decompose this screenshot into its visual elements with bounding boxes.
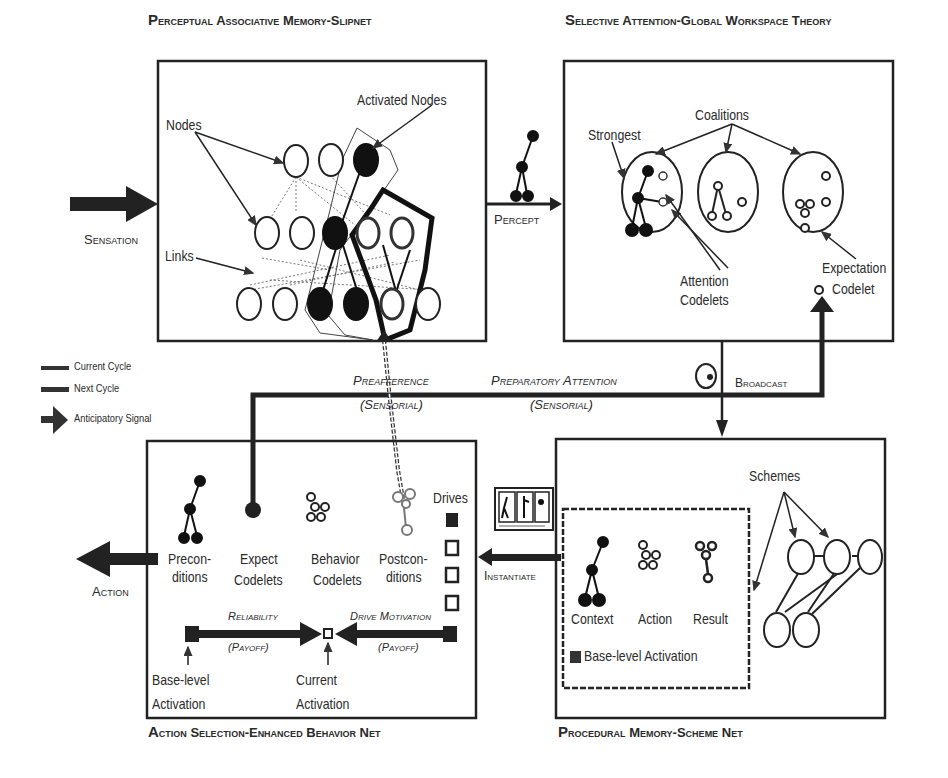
sensation-label: Sensation: [84, 233, 138, 247]
expect-codelet-node: [245, 502, 261, 518]
preparatory-attention-label-line1: Preparatory Attention: [491, 374, 617, 388]
preafference-chain: [376, 330, 404, 505]
percept-arrow: [486, 131, 562, 211]
action-arrow: [76, 541, 158, 577]
legend-symbols: [41, 366, 69, 434]
attention-codelets-label-line1: Attention: [680, 273, 729, 289]
procedural-memory-module-box: [556, 439, 885, 718]
drive: [446, 541, 458, 555]
coalition-strongest: [622, 152, 682, 232]
node: [319, 144, 343, 176]
reliability-label: Reliability: [228, 611, 278, 623]
activated-node: [344, 288, 368, 320]
action-component-label: Action: [638, 611, 672, 627]
instantiate-arrow: [478, 488, 561, 566]
drives-label: Drives: [433, 490, 468, 506]
scheme-node: [793, 613, 819, 647]
base-level-activation-label-line1: Base-level: [152, 672, 209, 688]
action-label: Action: [92, 585, 129, 599]
procedural-base-level-activation-label: Base-level Activation: [584, 648, 697, 664]
drive: [446, 596, 458, 610]
context-label: Context: [571, 611, 613, 627]
node: [255, 217, 279, 249]
activated-node: [308, 288, 332, 320]
base-level-activation-swatch: [570, 651, 581, 663]
coalitions-label: Coalitions: [695, 107, 749, 123]
activated-nodes-label: Activated Nodes: [357, 92, 447, 108]
node: [416, 288, 440, 320]
node: [284, 145, 308, 177]
preconditions-label-line2: ditions: [172, 569, 208, 585]
anticipated-node: [357, 218, 379, 248]
procedural-module-title: Procedural Memory-Scheme Net: [558, 724, 743, 740]
expectation-codelet-label-line1: Expectation: [822, 260, 886, 276]
instantiate-label: Instantiate: [484, 570, 536, 583]
expect-codelets-label-line1: Expect: [240, 551, 278, 567]
preafference-label-line1: Preafference: [353, 374, 429, 388]
scheme-node: [764, 613, 790, 647]
behavior-codelets-label-line2: Codelets: [313, 572, 362, 588]
percept-structure-icon: [511, 131, 538, 201]
result-label: Result: [693, 611, 728, 627]
node: [273, 288, 297, 320]
reliability-payoff-label: (Payoff): [228, 642, 269, 654]
postconditions-label-line2: ditions: [386, 569, 422, 585]
preconditions-label-line1: Precon-: [168, 551, 211, 567]
legend-next-cycle-label: Next Cycle: [74, 383, 119, 395]
legend-current-cycle-label: Current Cycle: [74, 361, 131, 373]
pam-module-title: Perceptual Associative Memory-Slipnet: [148, 12, 372, 28]
strongest-label: Strongest: [588, 127, 641, 143]
preafference-label-line2: (Sensorial): [360, 398, 423, 412]
behavior-codelets-label-line1: Behavior: [311, 551, 360, 567]
activated-node: [323, 217, 347, 249]
legend-next-cycle-symbol: [41, 387, 69, 392]
node: [290, 217, 314, 249]
links-label: Links: [165, 248, 194, 264]
anticipated-node: [381, 289, 403, 319]
node: [237, 288, 261, 320]
scheme-instance-thumbnail-icon: [495, 488, 553, 530]
lida-cognitive-cycle-diagram: [0, 0, 948, 778]
current-activation-marker: [324, 629, 332, 638]
expectation-codelet-label-line2: Codelet: [832, 281, 874, 297]
drive: [446, 568, 458, 582]
scheme-node: [824, 540, 850, 574]
broadcast-label: Broadcast: [735, 377, 787, 390]
percept-label: Percept: [494, 213, 539, 227]
current-activation-label-line2: Activation: [296, 696, 349, 712]
base-level-activation-label-line2: Activation: [152, 696, 205, 712]
drive-motivation-label: Drive Motivation: [350, 611, 431, 623]
postconditions-label-line1: Postcon-: [379, 551, 428, 567]
anticipated-node: [391, 218, 413, 248]
broadcast-arrow: [696, 341, 728, 437]
current-activation-label-line1: Current: [296, 672, 337, 688]
drive-active: [446, 513, 458, 527]
conscious-broadcast-icon: [696, 364, 716, 388]
attention-codelets-label-line2: Codelets: [680, 292, 729, 308]
drive-motivation-payoff-label: (Payoff): [378, 642, 419, 654]
preparatory-attention-label-line2: (Sensorial): [530, 398, 593, 412]
coalition: [783, 152, 843, 232]
legend-anticipatory-signal-label: Anticipatory Signal: [74, 413, 151, 425]
action-selection-module-title: Action Selection-Enhanced Behavior Net: [148, 724, 380, 740]
activated-node: [354, 144, 378, 176]
gwt-module-title: Selective Attention-Global Workspace The…: [565, 12, 831, 28]
scheme-node: [858, 540, 882, 574]
expect-codelets-label-line2: Codelets: [234, 572, 283, 588]
sensation-arrow: [70, 186, 158, 222]
base-level-activation-marker: [185, 626, 199, 642]
scheme-node: [788, 540, 814, 574]
legend-current-cycle-symbol: [41, 366, 69, 370]
expectation-codelet-icon: [815, 286, 823, 294]
nodes-label: Nodes: [166, 117, 202, 133]
legend-anticipatory-signal-symbol: [41, 406, 68, 434]
schemes-label: Schemes: [749, 468, 800, 484]
